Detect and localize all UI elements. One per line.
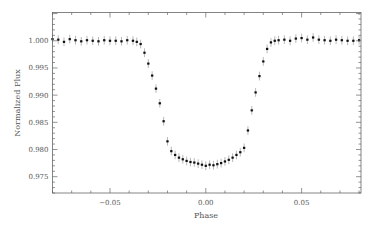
y-tick-label: 0.990 — [28, 92, 48, 100]
y-axis-label: Normalized Flux — [13, 69, 22, 137]
data-point — [140, 43, 142, 45]
data-point — [197, 163, 199, 165]
data-point — [247, 129, 249, 131]
data-point — [74, 39, 76, 41]
data-point — [255, 91, 257, 93]
data-point — [136, 41, 138, 43]
data-point — [295, 37, 297, 39]
data-point — [300, 37, 302, 39]
data-point — [212, 164, 214, 166]
data-point — [109, 40, 111, 42]
data-point — [224, 160, 226, 162]
data-point — [270, 41, 272, 43]
y-tick-label: 0.975 — [28, 173, 48, 181]
data-point — [80, 40, 82, 42]
data-point — [228, 159, 230, 161]
data-point — [86, 39, 88, 41]
y-tick-label: 0.980 — [28, 146, 48, 154]
x-axis-label: Phase — [194, 211, 218, 220]
data-point — [186, 160, 188, 162]
data-point — [97, 40, 99, 42]
data-point — [174, 154, 176, 156]
data-point — [182, 158, 184, 160]
data-point — [266, 48, 268, 50]
data-point — [151, 74, 153, 76]
data-point — [178, 157, 180, 159]
data-point — [216, 163, 218, 165]
data-point — [69, 38, 71, 40]
data-point — [92, 40, 94, 42]
data-point — [232, 157, 234, 159]
data-point — [147, 63, 149, 65]
x-tick-label: −0.05 — [99, 199, 120, 207]
data-point — [251, 109, 253, 111]
data-point — [329, 40, 331, 42]
data-point — [341, 39, 343, 41]
data-point — [278, 39, 280, 41]
data-point — [243, 147, 245, 149]
data-point — [201, 164, 203, 166]
y-axis-tick-labels: 1.0000.9950.9900.9850.9800.975 — [28, 37, 48, 181]
data-point — [289, 40, 291, 42]
data-point — [318, 39, 320, 41]
data-point — [163, 120, 165, 122]
data-point — [274, 40, 276, 42]
data-point — [63, 41, 65, 43]
data-point — [166, 140, 168, 142]
data-point — [155, 88, 157, 90]
data-point — [132, 40, 134, 42]
data-point — [306, 39, 308, 41]
light-curve-chart: −0.050.000.05 1.0000.9950.9900.9850.9800… — [0, 0, 377, 226]
data-point — [235, 154, 237, 156]
x-axis-tick-labels: −0.050.000.05 — [99, 199, 309, 207]
data-point — [120, 40, 122, 42]
data-point — [262, 60, 264, 62]
data-point — [352, 40, 354, 42]
y-tick-label: 0.995 — [28, 64, 48, 72]
data-point — [193, 161, 195, 163]
data-point — [335, 39, 337, 41]
data-point — [159, 102, 161, 104]
data-point — [346, 40, 348, 42]
data-point — [283, 39, 285, 41]
data-point — [209, 164, 211, 166]
data-points — [51, 36, 360, 167]
data-point — [239, 151, 241, 153]
data-point — [189, 161, 191, 163]
data-point — [258, 75, 260, 77]
y-tick-label: 1.000 — [28, 37, 48, 45]
data-point — [312, 36, 314, 38]
error-bars — [51, 33, 361, 170]
data-point — [205, 165, 207, 167]
data-point — [103, 39, 105, 41]
data-point — [220, 162, 222, 164]
x-tick-label: 0.05 — [294, 199, 310, 207]
data-point — [115, 40, 117, 42]
data-point — [143, 52, 145, 54]
x-tick-label: 0.00 — [198, 199, 214, 207]
data-point — [170, 150, 172, 152]
y-tick-label: 0.985 — [28, 119, 48, 127]
data-point — [323, 39, 325, 41]
data-point — [126, 39, 128, 41]
